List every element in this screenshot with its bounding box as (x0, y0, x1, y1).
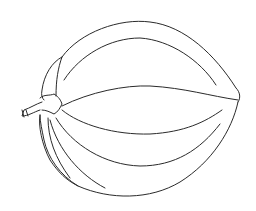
stem-shaft (22, 102, 42, 116)
left-lobe-inner-top (56, 57, 62, 96)
rib-upper (64, 38, 216, 85)
stem-base (40, 94, 62, 114)
rib-lower-1 (62, 110, 222, 134)
rib-lower-3 (50, 120, 105, 188)
drawing-canvas: Line-art sketch of a ribbed gourd (0, 0, 256, 211)
outer-top-contour (62, 21, 240, 102)
gourd-illustration (0, 0, 256, 211)
rib-middle (62, 86, 238, 106)
left-lobe-top (42, 57, 62, 100)
left-lobe-bottom (39, 115, 78, 186)
